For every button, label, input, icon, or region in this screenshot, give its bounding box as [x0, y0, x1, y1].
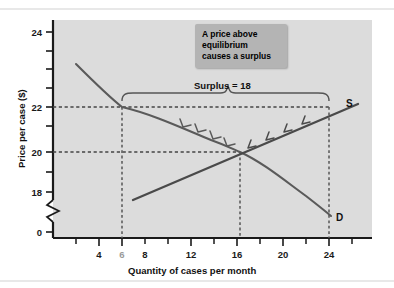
x-tick-label-8: 8: [135, 249, 155, 260]
callout-line-2: equilibrium: [202, 40, 281, 51]
x-tick-label-12: 12: [181, 249, 201, 260]
supply-curve-label: S: [346, 98, 353, 109]
callout-box: A price above equilibrium causes a surpl…: [195, 24, 287, 68]
callout-line-3: causes a surplus: [202, 51, 281, 62]
figure-container: 24 22 20 18 0 Price per case ($) 4 6 8 1…: [0, 0, 394, 288]
x-tick-label-24: 24: [319, 249, 339, 260]
x-tick-label-4: 4: [89, 249, 109, 260]
x-tick-label-20: 20: [273, 249, 293, 260]
callout-line-1: A price above: [202, 29, 281, 40]
x-tick-label-16: 16: [227, 249, 247, 260]
x-tick-label-6: 6: [112, 249, 132, 260]
y-tick-label-18: 18: [22, 187, 42, 198]
surplus-brace-label: Surplus = 18: [194, 80, 251, 91]
x-axis-title: Quantity of cases per month: [128, 265, 256, 276]
y-tick-label-24: 24: [22, 27, 42, 38]
y-tick-label-zero: 0: [22, 227, 42, 238]
demand-curve-label: D: [336, 212, 343, 223]
y-axis-title: Price per case ($): [16, 89, 27, 168]
